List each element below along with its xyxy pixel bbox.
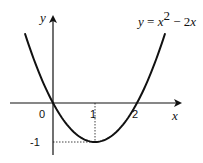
tick-x-1: 1 [90,108,96,120]
tick-x-2: 2 [132,108,138,120]
y-axis-label: y [38,10,46,25]
parabola-diagram: y x 0 1 2 -1 y = x2 − 2x [0,0,203,163]
tick-origin: 0 [39,108,45,120]
tick-y-minus-1: -1 [30,136,40,148]
parabola-curve [25,33,165,142]
equation-label: y = x2 − 2x [136,8,196,29]
x-axis-label: x [171,108,178,123]
